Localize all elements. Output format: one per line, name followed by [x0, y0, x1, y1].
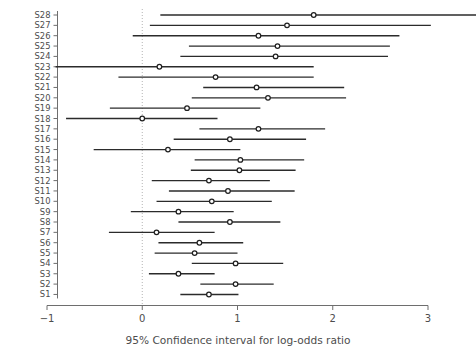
estimate-point-marker — [207, 178, 212, 183]
estimate-point-marker — [209, 199, 214, 204]
ci-row — [180, 292, 238, 297]
estimate-point-marker — [213, 75, 218, 80]
estimate-point-marker — [228, 137, 233, 142]
estimate-point-marker — [237, 168, 242, 173]
category-label-s17: S17 — [35, 124, 51, 134]
category-label-s6: S6 — [40, 238, 51, 248]
ci-row — [66, 116, 217, 121]
estimate-point-marker — [233, 282, 238, 287]
ci-row — [195, 158, 305, 163]
x-axis-tick-label: −1 — [40, 313, 55, 324]
x-axis-tick-label: 2 — [330, 313, 336, 324]
ci-row — [174, 137, 306, 142]
category-label-s22: S22 — [35, 72, 51, 82]
category-label-s20: S20 — [35, 93, 51, 103]
ci-row — [56, 64, 314, 69]
category-label-s24: S24 — [35, 51, 51, 61]
category-label-s9: S9 — [40, 207, 51, 217]
ci-row — [149, 271, 215, 276]
estimate-point-marker — [254, 85, 259, 90]
estimate-point-marker — [192, 251, 197, 256]
category-label-s7: S7 — [40, 227, 51, 237]
ci-row — [94, 147, 241, 152]
estimate-point-marker — [273, 54, 278, 59]
x-axis-tick-label: 0 — [139, 313, 145, 324]
ci-row — [155, 251, 238, 256]
estimate-point-marker — [266, 96, 271, 101]
category-label-s15: S15 — [35, 145, 51, 155]
category-axis-group: S28S27S26S25S24S23S22S21S20S19S18S17S16S… — [35, 10, 58, 299]
estimate-point-marker — [238, 158, 243, 163]
estimate-point-marker — [256, 33, 261, 38]
estimate-point-marker — [197, 240, 202, 245]
category-label-s18: S18 — [35, 114, 51, 124]
ci-row — [192, 96, 346, 101]
ci-row — [133, 33, 400, 38]
ci-row — [110, 106, 260, 111]
estimate-point-marker — [166, 147, 171, 152]
category-label-s3: S3 — [40, 269, 51, 279]
ci-row — [192, 261, 283, 266]
ci-row — [157, 199, 272, 204]
ci-row — [158, 240, 243, 245]
category-label-s8: S8 — [40, 217, 51, 227]
category-label-s19: S19 — [35, 103, 51, 113]
x-axis-group: −10123 — [40, 306, 432, 324]
ci-row — [178, 220, 280, 225]
category-label-s21: S21 — [35, 82, 51, 92]
category-label-s25: S25 — [35, 41, 51, 51]
category-label-s4: S4 — [40, 258, 51, 268]
estimate-point-marker — [176, 209, 181, 214]
ci-row — [169, 189, 295, 194]
estimate-point-marker — [285, 23, 290, 28]
category-label-s2: S2 — [40, 279, 51, 289]
ci-rows-group — [56, 13, 476, 297]
ci-row — [199, 127, 325, 132]
category-label-s1: S1 — [40, 289, 51, 299]
ci-row — [109, 230, 215, 235]
category-label-s23: S23 — [35, 62, 51, 72]
ci-row — [131, 209, 234, 214]
estimate-point-marker — [176, 271, 181, 276]
category-label-s12: S12 — [35, 176, 51, 186]
ci-row — [152, 178, 270, 183]
ci-row — [191, 168, 296, 173]
ci-row — [180, 54, 388, 59]
estimate-point-marker — [154, 230, 159, 235]
estimate-point-marker — [311, 13, 316, 18]
category-label-s28: S28 — [35, 10, 51, 20]
category-label-s27: S27 — [35, 20, 51, 30]
category-label-s5: S5 — [40, 248, 51, 258]
estimate-point-marker — [275, 44, 280, 49]
estimate-point-marker — [256, 127, 261, 132]
x-axis-title: 95% Confidence interval for log-odds rat… — [126, 334, 351, 346]
estimate-point-marker — [226, 189, 231, 194]
estimate-point-marker — [157, 64, 162, 69]
estimate-point-marker — [228, 220, 233, 225]
ci-row — [200, 282, 273, 287]
category-label-s14: S14 — [35, 155, 51, 165]
ci-row — [150, 23, 431, 28]
ci-row — [203, 85, 344, 90]
x-axis-tick-label: 3 — [425, 313, 431, 324]
category-label-s10: S10 — [35, 196, 51, 206]
ci-row — [118, 75, 313, 80]
estimate-point-marker — [233, 261, 238, 266]
category-label-s13: S13 — [35, 165, 51, 175]
category-label-s16: S16 — [35, 134, 51, 144]
category-label-s11: S11 — [35, 186, 51, 196]
category-label-s26: S26 — [35, 31, 51, 41]
forest-plot-figure: S28S27S26S25S24S23S22S21S20S19S18S17S16S… — [0, 0, 476, 357]
ci-row — [160, 13, 476, 18]
x-axis-tick-label: 1 — [234, 313, 240, 324]
estimate-point-marker — [207, 292, 212, 297]
ci-row — [189, 44, 390, 49]
estimate-point-marker — [140, 116, 145, 121]
forest-plot-svg: S28S27S26S25S24S23S22S21S20S19S18S17S16S… — [0, 0, 476, 357]
estimate-point-marker — [185, 106, 190, 111]
